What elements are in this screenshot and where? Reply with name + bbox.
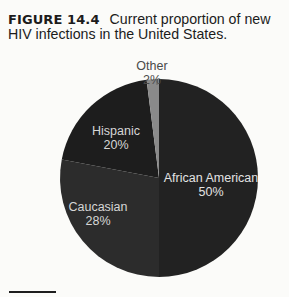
- label-caucasian-value: 28%: [85, 214, 110, 228]
- footer-rule: [9, 291, 56, 293]
- label-african-american-value: 50%: [198, 185, 223, 199]
- label-hispanic-name: Hispanic: [92, 124, 140, 138]
- pie-chart: Other 2% Hispanic 20% African American 5…: [0, 0, 289, 297]
- label-other-name: Other: [136, 59, 167, 73]
- label-other-value: 2%: [143, 73, 161, 87]
- label-hispanic-value: 20%: [103, 138, 128, 152]
- label-caucasian-name: Caucasian: [68, 200, 127, 214]
- label-african-american-name: African American: [164, 171, 259, 185]
